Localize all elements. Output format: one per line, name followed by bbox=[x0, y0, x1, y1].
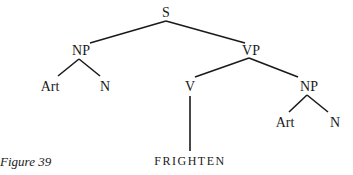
node-s: S bbox=[162, 6, 170, 20]
edge-np2-art bbox=[289, 95, 307, 112]
node-art-subject: Art bbox=[41, 80, 60, 94]
node-art-object: Art bbox=[276, 116, 295, 130]
edge-np-n bbox=[79, 59, 100, 76]
node-n-object: N bbox=[330, 116, 340, 130]
edge-vp-np bbox=[249, 58, 298, 77]
node-np-object: NP bbox=[300, 80, 318, 94]
edge-s-np bbox=[90, 21, 166, 43]
node-v: V bbox=[185, 80, 195, 94]
edge-s-vp bbox=[166, 21, 245, 43]
node-frighten: FRIGHTEN bbox=[154, 155, 225, 167]
edge-np2-n bbox=[307, 95, 328, 112]
node-np-subject: NP bbox=[72, 44, 90, 58]
node-vp: VP bbox=[242, 44, 260, 58]
figure-caption: Figure 39 bbox=[0, 154, 51, 170]
node-n-subject: N bbox=[100, 80, 110, 94]
edge-np-art bbox=[58, 59, 79, 76]
edge-vp-v bbox=[195, 58, 249, 77]
syntax-tree-diagram: S NP VP Art N V NP Art N FRIGHTEN Figure… bbox=[0, 0, 353, 175]
